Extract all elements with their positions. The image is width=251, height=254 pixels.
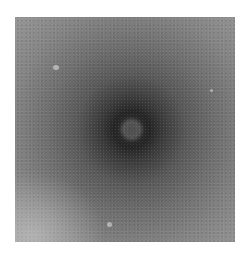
bright-speck [107, 222, 112, 227]
micrograph-image [15, 17, 235, 242]
bright-speck [210, 89, 213, 92]
bright-speck [53, 65, 59, 70]
bright-corner-region [15, 172, 105, 242]
